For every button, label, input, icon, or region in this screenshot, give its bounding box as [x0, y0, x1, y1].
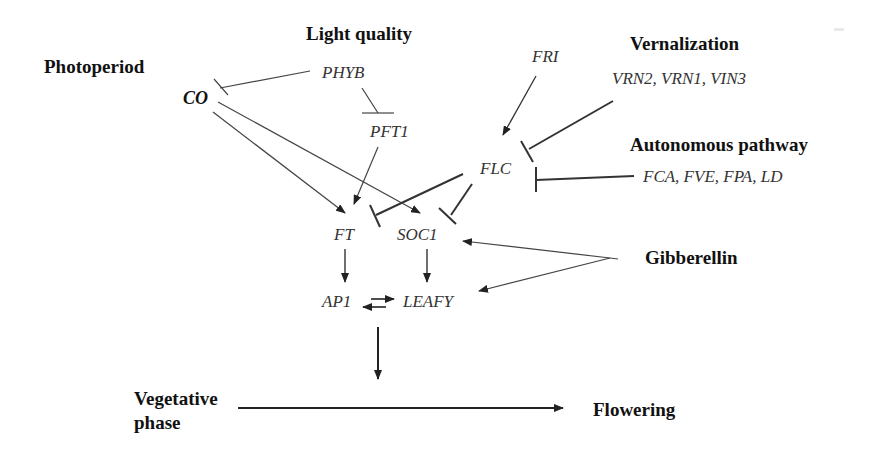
- edge-vrn-inhibits-flc: [521, 101, 613, 162]
- pathway-label-vernalization: Vernalization: [630, 34, 739, 53]
- edge-co-to-ft: [213, 112, 345, 213]
- flowering-pathway-diagram: Photoperiod Light quality Vernalization …: [0, 0, 881, 463]
- phase-vegetative-line2: phase: [134, 413, 180, 432]
- gene-leafy: LEAFY: [403, 293, 453, 310]
- gene-ft: FT: [334, 226, 354, 243]
- edge-co-to-soc1: [218, 102, 420, 213]
- edge-gibberellin-to-soc1: [463, 241, 610, 258]
- gene-fri: FRI: [532, 48, 558, 65]
- pathway-label-gibberellin: Gibberellin: [645, 248, 738, 267]
- gene-flc: FLC: [480, 160, 511, 177]
- pathway-label-photoperiod: Photoperiod: [44, 57, 144, 76]
- gene-ap1: AP1: [322, 293, 351, 310]
- phase-vegetative-line1: Vegetative: [134, 389, 218, 408]
- edge-autonomous-inhibits-flc: [536, 167, 634, 192]
- edge-gibberellin-to-leafy: [479, 258, 610, 291]
- edge-phyb-inhibits-pft1: [362, 88, 394, 113]
- pathway-label-light-quality: Light quality: [306, 24, 412, 43]
- scan-artifact-mark: [834, 28, 844, 31]
- phase-flowering: Flowering: [593, 400, 675, 419]
- gene-co: CO: [183, 89, 208, 107]
- pathway-label-autonomous: Autonomous pathway: [630, 135, 808, 154]
- gene-phyb: PHYB: [322, 64, 365, 81]
- edge-flc-inhibits-soc1: [439, 184, 472, 224]
- edge-fri-to-flc: [503, 76, 536, 135]
- edge-flc-inhibits-ft: [370, 174, 463, 227]
- gene-soc1: SOC1: [397, 226, 438, 243]
- gene-group-autonomous: FCA, FVE, FPA, LD: [643, 168, 782, 185]
- edge-pft1-to-ft: [354, 147, 378, 204]
- edge-phyb-inhibits-co: [214, 71, 310, 95]
- gene-group-vrn: VRN2, VRN1, VIN3: [612, 70, 746, 87]
- edge-gibberellin-stem: [610, 258, 618, 259]
- gene-pft1: PFT1: [370, 123, 409, 140]
